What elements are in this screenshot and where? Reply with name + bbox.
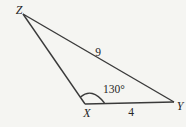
figure-background: [0, 0, 186, 127]
diagram-canvas: Z X Y 9 4 130°: [0, 0, 186, 127]
vertex-z-label: Z: [16, 3, 23, 17]
side-xy-length-label: 4: [128, 106, 134, 118]
side-zy-length-label: 9: [95, 46, 101, 58]
vertex-x-label: X: [82, 106, 91, 120]
angle-x-measure-label: 130°: [103, 83, 125, 95]
triangle-figure: Z X Y 9 4 130°: [0, 0, 186, 127]
